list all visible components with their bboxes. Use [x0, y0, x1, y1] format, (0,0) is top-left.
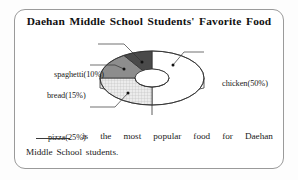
screenshot-page: Daehan Middle School Students' Favorite …	[0, 0, 298, 180]
slice-label-bread: bread(15%)	[47, 91, 86, 100]
question-word-daehan: Daehan	[245, 129, 273, 145]
question-word-the: the	[100, 129, 111, 145]
question-word-food: food	[193, 129, 210, 145]
page-title: Daehan Middle School Students' Favorite …	[0, 15, 298, 27]
question-word-for: for	[222, 129, 233, 145]
slice-label-chicken: chicken(50%)	[222, 79, 268, 88]
question-line-2: Middle School students.	[26, 145, 273, 161]
slice-label-spaghetti: spaghetti(10%)	[54, 70, 104, 79]
question-sentence: is the most popular food for Daehan Midd…	[26, 129, 273, 160]
question-word-popular: popular	[153, 129, 181, 145]
question-word-most: most	[123, 129, 141, 145]
question-line-1: is the most popular food for Daehan	[26, 129, 273, 145]
pie-chart: spaghetti(10%) bread(15%) pizza(25%) chi…	[18, 32, 280, 124]
donut-top-face	[100, 51, 204, 105]
answer-blank[interactable]	[36, 130, 70, 139]
question-word-is: is	[82, 129, 88, 145]
